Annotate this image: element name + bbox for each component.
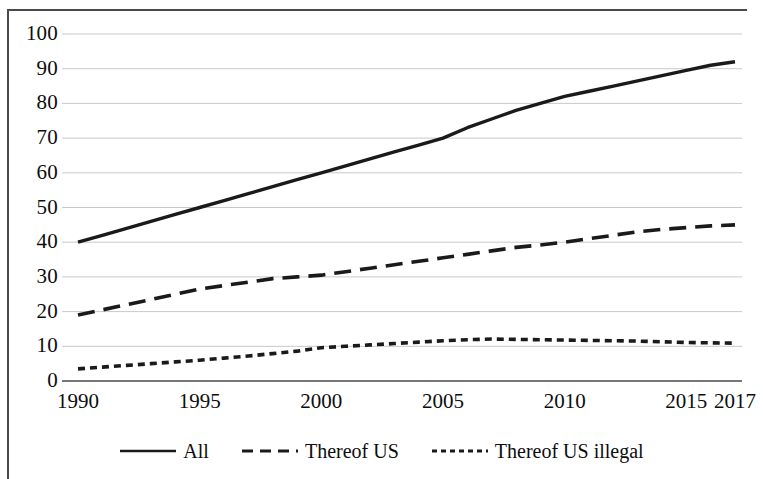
legend-item[interactable]: All	[119, 440, 209, 463]
x-tick-label: 2005	[422, 391, 464, 412]
x-tick-label: 2015	[665, 391, 707, 412]
legend-label: Thereof US illegal	[495, 440, 644, 463]
legend-item[interactable]: Thereof US	[241, 440, 399, 463]
legend-swatch-solid	[119, 444, 177, 458]
x-tick-label: 2017	[714, 391, 756, 412]
x-tick-label: 1995	[179, 391, 221, 412]
legend-swatch-dotted	[431, 444, 489, 458]
chart-legend: AllThereof USThereof US illegal	[0, 436, 763, 466]
legend-item[interactable]: Thereof US illegal	[431, 440, 644, 463]
legend-label: All	[183, 440, 209, 463]
x-tick-label: 2010	[544, 391, 586, 412]
legend-swatch-dashed	[241, 444, 299, 458]
x-tick-label: 1990	[57, 391, 99, 412]
x-tick-label: 2000	[300, 391, 342, 412]
legend-label: Thereof US	[305, 440, 399, 463]
